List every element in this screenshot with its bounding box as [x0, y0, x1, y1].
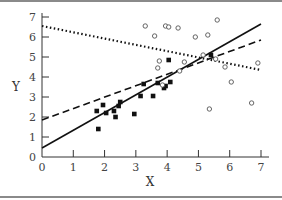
square-marker: [166, 58, 171, 63]
circle-marker: [176, 26, 180, 30]
square-marker: [168, 80, 173, 85]
circle-marker: [249, 101, 253, 105]
circle-marker: [177, 69, 181, 73]
y-tick-label: 3: [29, 91, 36, 104]
circle-marker: [229, 80, 233, 84]
circle-marker: [152, 34, 156, 38]
dotted-regression-line: [42, 26, 261, 70]
circle-marker: [201, 53, 205, 57]
data-points: [94, 18, 260, 132]
axes: 0123456701234567: [29, 11, 269, 174]
circle-marker: [206, 33, 210, 37]
square-marker: [155, 81, 160, 86]
circle-marker: [207, 107, 211, 111]
square-marker: [141, 82, 146, 87]
circle-marker: [213, 57, 217, 61]
x-tick-label: 6: [226, 161, 233, 174]
x-tick-label: 5: [195, 161, 202, 174]
square-marker: [104, 111, 109, 116]
y-tick-label: 5: [29, 51, 36, 64]
circle-marker: [256, 61, 260, 65]
x-axis-label: X: [146, 175, 155, 189]
square-marker: [96, 127, 101, 132]
x-tick-label: 1: [70, 161, 77, 174]
circle-marker: [182, 60, 186, 64]
y-tick-label: 7: [29, 11, 36, 24]
circle-marker: [160, 83, 164, 87]
square-marker: [151, 94, 156, 99]
circle-marker: [193, 35, 197, 39]
y-tick-label: 1: [29, 131, 36, 144]
square-marker: [132, 112, 137, 117]
dashed-regression-line: [42, 40, 261, 120]
circle-marker: [167, 25, 171, 29]
circle-marker: [143, 24, 147, 28]
x-tick-label: 4: [164, 161, 171, 174]
circle-marker: [215, 18, 219, 22]
square-marker: [94, 109, 99, 114]
circle-marker: [223, 65, 227, 69]
y-tick-label: 6: [29, 31, 36, 44]
regression-lines: [42, 24, 261, 148]
x-tick-label: 0: [39, 161, 46, 174]
square-marker: [209, 53, 214, 58]
solid-regression-line: [42, 24, 261, 148]
circle-marker: [157, 59, 161, 63]
scatter-chart: 0123456701234567 X Y: [0, 0, 282, 200]
y-tick-label: 4: [29, 71, 36, 84]
x-tick-label: 2: [101, 161, 108, 174]
y-tick-label: 2: [29, 111, 36, 124]
square-marker: [101, 103, 106, 108]
square-marker: [116, 104, 121, 109]
x-tick-label: 3: [132, 161, 139, 174]
y-tick-label: 0: [29, 151, 36, 164]
square-marker: [118, 100, 123, 105]
circle-marker: [156, 66, 160, 70]
x-tick-label: 7: [258, 161, 265, 174]
square-marker: [113, 115, 118, 120]
square-marker: [112, 109, 117, 114]
square-marker: [138, 94, 143, 99]
y-axis-label: Y: [11, 80, 21, 94]
